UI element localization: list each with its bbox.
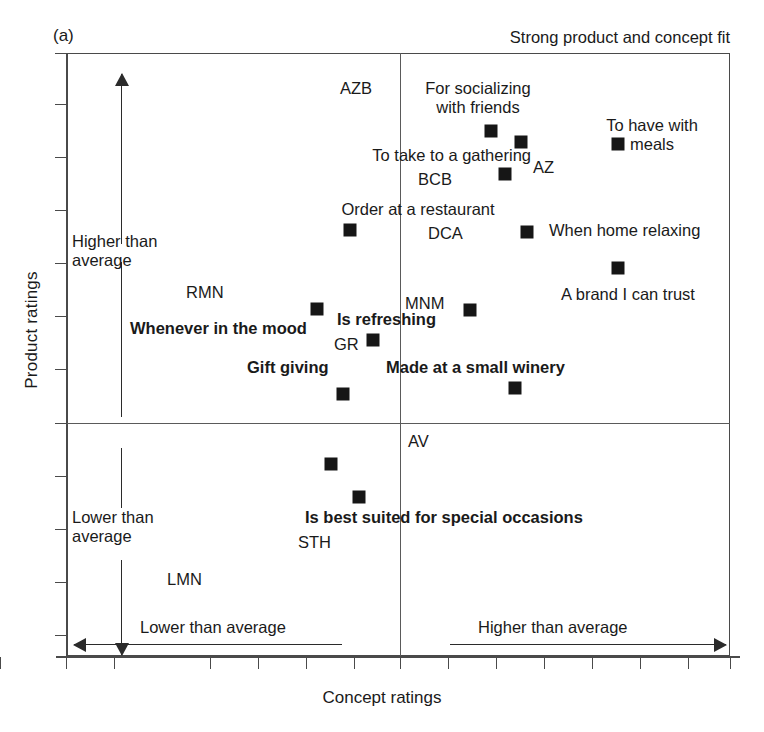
y-axis-tick (55, 476, 67, 477)
y-axis-tick (55, 210, 67, 211)
y-axis-tick (55, 316, 67, 317)
y-axis-tick (55, 157, 67, 158)
left-direction-arrow (74, 638, 342, 652)
panel-letter: (a) (53, 26, 74, 46)
upper-direction-arrow (115, 74, 129, 244)
y-lower-descriptor: Lower than average (72, 508, 154, 546)
data-point-marker (367, 334, 380, 347)
x-axis-tick (258, 657, 259, 669)
point-label-for-socializing: For socializing with friends (425, 79, 530, 117)
point-label-small-winery: Made at a small winery (386, 358, 565, 377)
y-axis-tick (55, 53, 67, 54)
x-axis-tick (66, 657, 67, 669)
y-axis-tick (55, 423, 67, 424)
data-point-marker (612, 262, 625, 275)
x-axis-tick (544, 657, 545, 669)
x-axis-tick (306, 657, 307, 669)
x-axis-line (56, 656, 740, 658)
right-direction-arrow (450, 638, 726, 652)
x-axis-tick (0, 657, 1, 669)
data-point-marker (337, 388, 350, 401)
data-point-marker (612, 138, 625, 151)
data-point-marker (344, 224, 357, 237)
x-axis-tick (210, 657, 211, 669)
data-point-marker (515, 136, 528, 149)
y-axis-tick (55, 369, 67, 370)
vertical-quadrant-divider (400, 53, 401, 656)
point-label-to-take-gathering: To take to a gathering (372, 146, 531, 165)
point-label-az: AZ (533, 158, 554, 177)
x-axis-tick (688, 657, 689, 669)
point-label-order-restaurant: Order at a restaurant (341, 200, 494, 219)
x-axis-tick (730, 657, 731, 669)
point-label-av: AV (408, 432, 429, 451)
y-upper-descriptor: Higher than average (72, 232, 157, 270)
point-label-brand-trust: A brand I can trust (561, 285, 695, 304)
point-label-rmn: RMN (186, 283, 224, 302)
data-point-marker (485, 125, 498, 138)
point-label-lmn: LMN (167, 570, 202, 589)
point-label-bcb: BCB (418, 170, 452, 189)
x-axis-tick (640, 657, 641, 669)
x-axis-title: Concept ratings (0, 688, 764, 708)
point-label-best-suited: Is best suited for special occasions (305, 508, 583, 527)
horizontal-quadrant-divider (66, 423, 730, 424)
y-axis-tick (55, 104, 67, 105)
y-axis-title: Product ratings (22, 250, 42, 410)
x-right-descriptor: Higher than average (478, 618, 628, 637)
lower-direction-arrow-upper-stem (115, 448, 129, 508)
point-label-when-home-relaxing: When home relaxing (549, 221, 700, 240)
point-label-azb: AZB (340, 79, 372, 98)
y-axis-tick (55, 263, 67, 264)
data-point-marker (499, 168, 512, 181)
data-point-marker (464, 304, 477, 317)
y-axis-line (66, 53, 68, 656)
x-axis-tick (592, 657, 593, 669)
y-axis-tick (55, 529, 67, 530)
point-label-mnm: MNM (405, 294, 444, 313)
x-left-descriptor: Lower than average (140, 618, 286, 637)
point-label-sth: STH (298, 533, 331, 552)
point-label-whenever-mood: Whenever in the mood (130, 319, 307, 338)
point-label-dca: DCA (428, 224, 463, 243)
y-axis-tick (55, 635, 67, 636)
upper-direction-arrow-lower-stem (115, 262, 129, 417)
data-point-marker (325, 458, 338, 471)
data-point-marker (311, 303, 324, 316)
x-axis-tick (354, 657, 355, 669)
data-point-marker (509, 382, 522, 395)
data-point-marker (353, 491, 366, 504)
x-axis-tick (448, 657, 449, 669)
point-label-gift-giving: Gift giving (247, 358, 329, 377)
figure-canvas: (a) Strong product and concept fit Produ… (0, 0, 764, 732)
strong-fit-note: Strong product and concept fit (510, 28, 730, 47)
data-point-marker (521, 226, 534, 239)
y-axis-tick (55, 582, 67, 583)
point-label-gr: GR (334, 335, 359, 354)
x-axis-tick (114, 657, 115, 669)
x-axis-tick (400, 657, 401, 669)
x-axis-tick (496, 657, 497, 669)
